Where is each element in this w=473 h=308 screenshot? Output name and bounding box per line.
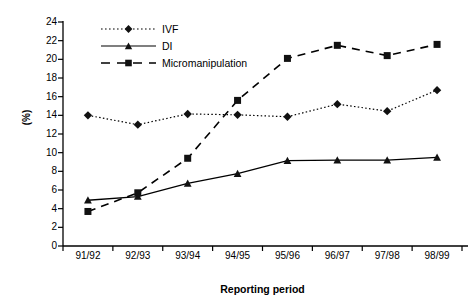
data-point-marker — [84, 111, 92, 119]
data-point-marker — [184, 155, 191, 162]
x-tick-label: 94/95 — [213, 250, 263, 262]
x-tick-label: 96/97 — [312, 250, 362, 262]
x-tick-label: 91/92 — [63, 250, 113, 262]
legend-item-di: DI — [100, 37, 330, 54]
x-axis-tick-labels: 91/9292/9393/9494/9595/9696/9797/9898/99 — [63, 250, 462, 268]
x-tick-label: 92/93 — [113, 250, 163, 262]
data-point-marker — [234, 97, 241, 104]
data-point-marker — [433, 86, 441, 94]
x-tick-label: 98/99 — [412, 250, 462, 262]
data-point-marker — [134, 120, 142, 128]
data-point-marker — [434, 41, 441, 48]
data-point-marker — [84, 208, 91, 215]
legend-item-ivf: IVF — [100, 20, 330, 37]
series-line — [88, 90, 437, 125]
x-tick-label: 93/94 — [163, 250, 213, 262]
line-chart: (%) 024681012141618202224 91/9292/9393/9… — [0, 0, 473, 308]
data-point-marker — [233, 111, 241, 119]
legend-label-di: DI — [162, 40, 173, 52]
data-point-marker — [283, 113, 291, 121]
x-tick-label: 95/96 — [263, 250, 313, 262]
data-point-marker — [183, 110, 191, 118]
legend: IVF DI Micromanipulation — [100, 20, 330, 71]
data-point-marker — [334, 42, 341, 49]
legend-label-ivf: IVF — [162, 23, 178, 35]
data-point-marker — [383, 107, 391, 115]
x-axis-title: Reporting period — [63, 283, 462, 295]
data-point-marker — [134, 189, 141, 196]
series-ivf — [84, 86, 442, 129]
legend-label-micromanipulation: Micromanipulation — [162, 57, 247, 69]
legend-key-di — [100, 39, 157, 53]
x-tick-label: 97/98 — [362, 250, 412, 262]
legend-key-ivf — [100, 22, 157, 36]
data-point-marker — [333, 100, 341, 108]
legend-key-micromanipulation — [100, 56, 157, 70]
legend-item-micromanipulation: Micromanipulation — [100, 54, 330, 71]
data-point-marker — [384, 52, 391, 59]
